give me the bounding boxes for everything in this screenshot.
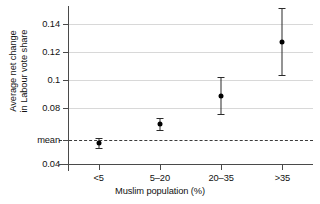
gridline [68, 108, 313, 109]
y-tick-label: 0.04 [42, 159, 60, 169]
y-tick-label: 0.1 [47, 75, 60, 85]
y-tick-label: mean [37, 135, 60, 145]
data-point [157, 121, 162, 126]
y-tick-label: 0.08 [42, 103, 60, 113]
chart-figure: Average net change in Labour vote share … [0, 0, 320, 204]
x-tick-label: 5–20 [150, 173, 170, 183]
x-tick-mark [99, 165, 100, 170]
error-bar-cap [156, 118, 163, 119]
x-tick-mark [282, 165, 283, 170]
x-tick-label: 20–35 [208, 173, 233, 183]
data-point [219, 93, 224, 98]
y-tick-label: 0.14 [42, 19, 60, 29]
error-bar-cap [218, 77, 225, 78]
x-tick-label: >35 [275, 173, 290, 183]
error-bar-cap [218, 114, 225, 115]
gridline [68, 24, 313, 25]
y-axis-line [68, 6, 69, 171]
data-point [280, 39, 285, 44]
plot-area: 0.140.120.10.08mean0.04 <55–2020–35>35 [68, 13, 313, 164]
gridline [68, 52, 313, 53]
y-tick-label: 0.12 [42, 47, 60, 57]
error-bar-cap [95, 148, 102, 149]
x-axis-line [59, 164, 313, 165]
y-axis-title: Average net change in Labour vote share [8, 0, 36, 144]
x-tick-label: <5 [93, 173, 103, 183]
error-bar-cap [279, 75, 286, 76]
gridline [68, 80, 313, 81]
x-tick-mark [160, 165, 161, 170]
x-tick-mark [221, 165, 222, 170]
x-axis-title: Muslim population (%) [0, 186, 320, 196]
error-bar-cap [95, 138, 102, 139]
error-bar-cap [279, 8, 286, 9]
error-bar-cap [156, 130, 163, 131]
data-point [96, 140, 101, 145]
